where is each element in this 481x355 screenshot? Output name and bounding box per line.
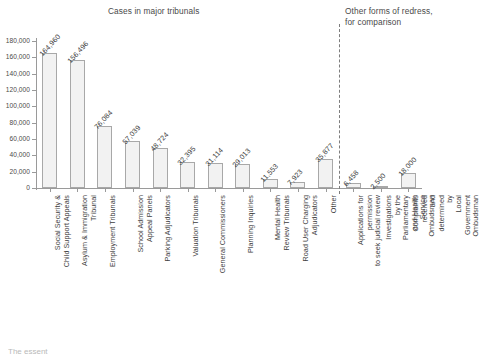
section-divider: [339, 24, 340, 194]
x-axis-category-label: Valuation Tribunals: [192, 195, 201, 257]
y-axis-tick-mark: [32, 155, 36, 156]
y-axis-tick-mark: [32, 90, 36, 91]
x-axis-tick-mark: [381, 188, 382, 192]
y-axis-tick-label: 0: [2, 184, 30, 191]
y-axis-tick-mark: [32, 57, 36, 58]
y-axis-tick-label: 80,000: [2, 119, 30, 126]
x-axis-tick-mark: [270, 188, 271, 192]
y-axis-tick-label: 180,000: [2, 37, 30, 44]
x-axis-category-label: Other: [330, 195, 339, 213]
y-axis-tick-mark: [32, 172, 36, 173]
x-axis-category-label: School Admission Appeal Panels: [137, 195, 154, 253]
bar: [42, 53, 57, 188]
bar: [97, 126, 112, 188]
x-axis-tick-mark: [353, 188, 354, 192]
y-axis-tick-label: 160,000: [2, 53, 30, 60]
x-axis-tick-mark: [105, 188, 106, 192]
x-axis-tick-mark: [50, 188, 51, 192]
x-axis-category-label: Asylum & Immigration Tribunal: [81, 195, 98, 266]
figure-caption: The essent: [8, 347, 48, 355]
y-axis-tick-label: 140,000: [2, 70, 30, 77]
y-axis-tick-mark: [32, 139, 36, 140]
x-axis-tick-mark: [160, 188, 161, 192]
y-axis-tick-label: 60,000: [2, 135, 30, 142]
bar: [125, 141, 140, 188]
x-axis-category-label: Planning Inquiries: [247, 195, 256, 253]
x-axis-tick-mark: [77, 188, 78, 192]
x-axis-tick-mark: [326, 188, 327, 192]
x-axis-category-label: Applications for permission to seek judi…: [357, 195, 383, 277]
x-axis-tick-mark: [133, 188, 134, 192]
x-axis-tick-mark: [298, 188, 299, 192]
y-axis-tick-label: 20,000: [2, 168, 30, 175]
x-axis-category-label: Complaints received and determined by Lo…: [412, 195, 481, 237]
y-axis-tick-mark: [32, 74, 36, 75]
x-axis-category-label: Parking Adjudicators: [164, 195, 173, 262]
x-axis-line: [36, 188, 422, 189]
x-axis-tick-mark: [408, 188, 409, 192]
y-axis-tick-label: 120,000: [2, 86, 30, 93]
y-axis-tick-label: 40,000: [2, 151, 30, 158]
y-axis-tick-mark: [32, 188, 36, 189]
y-axis-tick-mark: [32, 106, 36, 107]
x-axis-category-label: Employment Tribunals: [109, 195, 118, 267]
x-axis-tick-mark: [215, 188, 216, 192]
bar: [70, 60, 85, 188]
y-axis-tick-mark: [32, 41, 36, 42]
y-axis-labels: 180,000160,000140,000120,000100,00080,00…: [0, 0, 30, 355]
y-axis-line: [36, 38, 37, 190]
x-axis-category-label: Mental Health Review Tribunals: [274, 195, 291, 251]
bar: [153, 148, 168, 188]
x-axis-tick-mark: [188, 188, 189, 192]
x-axis-category-label: Road User Charging Adjudicators: [302, 195, 319, 261]
y-axis-tick-mark: [32, 123, 36, 124]
x-axis-tick-mark: [243, 188, 244, 192]
x-axis-category-label: General Commissioners: [219, 195, 228, 273]
y-axis-tick-label: 100,000: [2, 102, 30, 109]
x-axis-category-label: Social Security & Child Support Appeals: [54, 195, 71, 267]
